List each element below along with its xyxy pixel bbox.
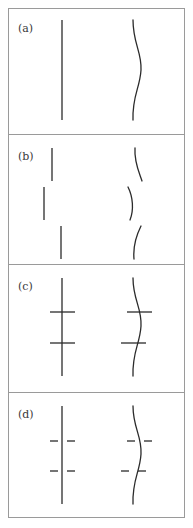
figure-canvas: (a) (b) (c) (d) bbox=[0, 0, 193, 528]
figure-panel-diagram: (a) (b) (c) (d) bbox=[0, 0, 193, 528]
panel-d-label: (d) bbox=[18, 408, 34, 421]
panel-a-label: (a) bbox=[18, 22, 33, 35]
panel-c-label: (c) bbox=[18, 280, 33, 293]
panel-b-label: (b) bbox=[18, 150, 34, 163]
figure-frame bbox=[9, 9, 185, 518]
